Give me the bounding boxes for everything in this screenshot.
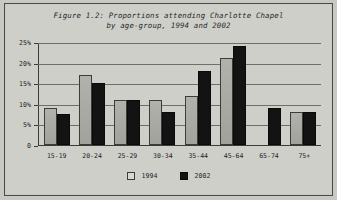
x-axis-label-20-24: 20-24 [74,152,109,160]
bar-2002-15-19 [57,114,70,145]
y-tick-20% [34,64,38,65]
bar-2002-25-29 [127,100,140,145]
figure-page: Figure 1.2: Proportions attending Charlo… [0,0,337,200]
y-axis-label-25%: 25% [19,39,31,47]
x-axis-label-65-74: 65-74 [251,152,286,160]
bar-group-35-44 [180,43,215,145]
x-axis-labels: 15-1920-2425-2930-3435-4445-6465-7475+ [39,152,322,160]
bar-group-45-64 [215,43,250,145]
y-axis-label-5%: 5% [23,121,31,129]
legend-item-2002: 2002 [180,172,211,180]
legend: 1994 2002 [0,172,337,180]
y-tick-10% [34,105,38,106]
bar-group-30-34 [145,43,180,145]
bar-group-15-19 [39,43,74,145]
legend-item-1994: 1994 [127,172,158,180]
figure-title: Figure 1.2: Proportions attending Charlo… [0,11,337,31]
y-axis-label-0: 0 [27,142,31,150]
plot-area: 05%10%15%20%25% [38,43,321,146]
bar-1994-45-64 [220,58,233,145]
x-axis-label-15-19: 15-19 [39,152,74,160]
bar-2002-75+ [303,112,316,145]
y-tick-15% [34,84,38,85]
bar-2002-20-24 [92,83,105,145]
legend-swatch-2002-icon [180,172,188,180]
bar-group-20-24 [74,43,109,145]
y-axis-label-10%: 10% [19,101,31,109]
bar-1994-20-24 [79,75,92,145]
bar-group-65-74 [251,43,286,145]
bar-1994-15-19 [44,108,57,145]
bar-1994-25-29 [114,100,127,145]
y-axis-label-20%: 20% [19,60,31,68]
bar-1994-30-34 [149,100,162,145]
legend-label-2002: 2002 [195,172,211,180]
bar-group-75+ [286,43,321,145]
bar-2002-35-44 [198,71,211,145]
bar-groups [39,43,321,145]
x-axis-label-75+: 75+ [287,152,322,160]
y-tick-25% [34,43,38,44]
bar-group-25-29 [110,43,145,145]
bar-2002-30-34 [162,112,175,145]
y-tick-5% [34,125,38,126]
bar-1994-35-44 [185,96,198,145]
bar-1994-75+ [290,112,303,145]
legend-swatch-1994-icon [127,172,135,180]
bar-2002-65-74 [268,108,281,145]
x-axis-label-35-44: 35-44 [181,152,216,160]
bar-2002-45-64 [233,46,246,145]
y-tick-0 [34,146,38,147]
x-axis-line [38,145,321,146]
legend-label-1994: 1994 [142,172,158,180]
x-axis-label-45-64: 45-64 [216,152,251,160]
x-axis-label-30-34: 30-34 [145,152,180,160]
y-axis-label-15%: 15% [19,80,31,88]
x-axis-label-25-29: 25-29 [110,152,145,160]
